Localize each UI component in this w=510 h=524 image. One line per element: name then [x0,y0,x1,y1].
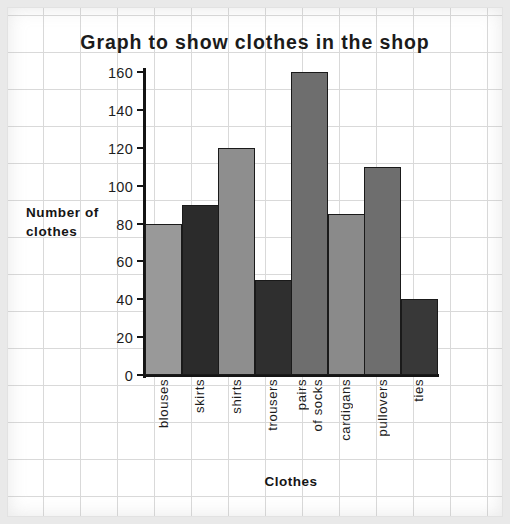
bar [328,214,365,375]
x-axis-tick-label-group: skirts [182,379,219,465]
x-axis-tick-label: ties [411,379,426,402]
y-axis-tick-mark [137,223,143,225]
y-axis-tick-label: 80 [116,217,133,233]
y-axis-tick-mark [137,374,143,376]
y-axis-tick-mark [137,336,143,338]
x-axis-tick-labels: blousesskirtsshirtstrouserspairsof socks… [145,379,437,465]
x-axis-tick-label: shirts [229,379,244,414]
bar [218,148,255,375]
x-axis-tick-label: trousers [265,379,280,431]
y-axis-title-line-2: clothes [26,222,99,241]
x-axis-tick-label-group: shirts [218,379,255,465]
x-axis-tick-label-group: pairsof socks [291,379,328,465]
y-axis-tick-label: 20 [116,330,133,346]
bar [291,72,328,375]
x-axis-tick-label-group: trousers [255,379,292,465]
x-axis-tick-label: pairs [294,379,309,410]
y-axis-tick-label: 140 [108,103,133,119]
y-axis-tick-label: 40 [116,292,133,308]
x-axis-title: Clothes [145,474,437,489]
y-axis-tick-label: 120 [108,141,133,157]
x-axis-tick-label-group: pullovers [364,379,401,465]
x-axis-tick-label-group: blouses [145,379,182,465]
x-axis-tick-label: pullovers [375,379,390,436]
y-axis-tick-mark [137,71,143,73]
y-axis-tick-mark [137,109,143,111]
y-axis-tick-label: 160 [108,65,133,81]
x-axis-tick-label-group: cardigans [328,379,365,465]
bar [255,280,292,375]
y-axis-title-line-1: Number of [26,203,99,222]
bar [401,299,438,375]
bar [364,167,401,375]
x-axis-tick-label: skirts [192,379,207,413]
y-axis-tick-mark [137,185,143,187]
bar-series [145,68,437,375]
chart-screenshot: Graph to show clothes in the shop Number… [0,0,510,524]
bar [182,205,219,375]
y-axis-tick-mark [137,260,143,262]
bar [145,224,182,376]
y-axis-tick-label: 0 [125,368,133,384]
y-axis-tick-mark [137,298,143,300]
chart-title: Graph to show clothes in the shop [0,31,510,54]
x-axis-tick-label-group: ties [401,379,438,465]
y-axis-tick-label: 100 [108,179,133,195]
x-axis-tick-label: cardigans [338,379,353,441]
x-axis-tick-label: blouses [156,379,171,428]
x-axis-tick-label: of socks [310,379,325,431]
y-axis-tick-mark [137,147,143,149]
y-axis-title: Number of clothes [26,203,99,241]
y-axis-tick-label: 60 [116,254,133,270]
